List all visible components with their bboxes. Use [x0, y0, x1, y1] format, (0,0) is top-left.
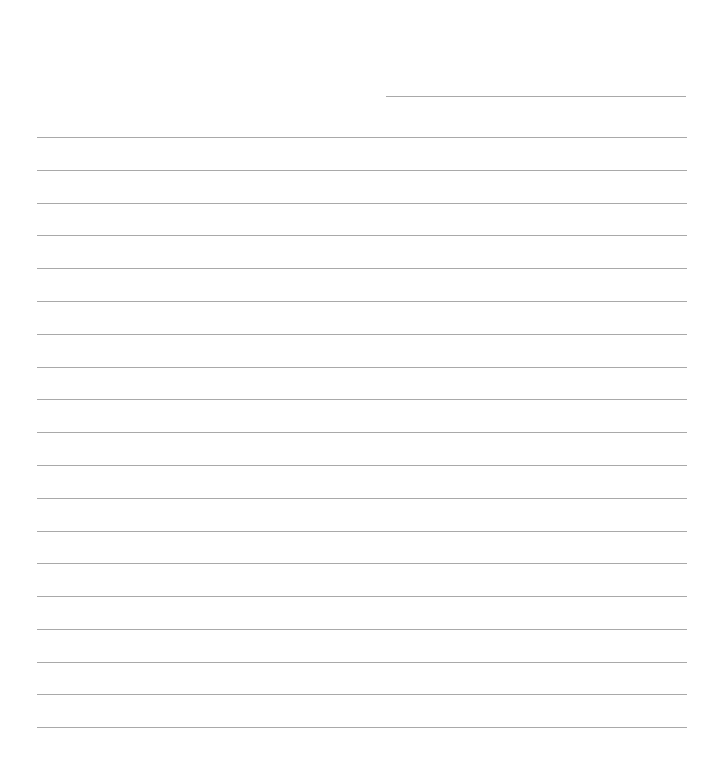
ruled-line: [37, 629, 687, 630]
ruled-line: [37, 334, 687, 335]
ruled-line: [37, 170, 687, 171]
ruled-line: [37, 465, 687, 466]
ruled-line: [37, 563, 687, 564]
ruled-line: [37, 203, 687, 204]
ruled-line: [37, 498, 687, 499]
ruled-line: [37, 432, 687, 433]
ruled-line: [37, 301, 687, 302]
ruled-line: [37, 694, 687, 695]
ruled-line: [37, 727, 687, 728]
ruled-line: [37, 531, 687, 532]
ruled-line: [37, 137, 687, 138]
ruled-line: [37, 268, 687, 269]
ruled-line: [37, 596, 687, 597]
ruled-line: [37, 399, 687, 400]
ruled-line: [37, 662, 687, 663]
ruled-line: [37, 235, 687, 236]
ruled-line: [37, 367, 687, 368]
header-name-line: [386, 96, 686, 97]
